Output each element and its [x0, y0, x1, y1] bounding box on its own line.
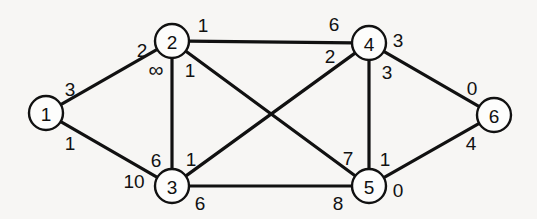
node-label-4: 4 [364, 34, 375, 55]
graph-edge-2-4 [188, 41, 353, 43]
graph-node-5: 5 [352, 169, 386, 203]
edge-weight-w-4-5-near5: 1 [380, 149, 391, 170]
edge-weight-w-2-4-near4: 6 [329, 14, 340, 35]
node-label-5: 5 [364, 177, 375, 198]
graph-node-1: 1 [29, 96, 63, 130]
edge-weight-w-4-6-near4: 3 [393, 30, 404, 51]
graph-node-6: 6 [477, 98, 511, 132]
graph-canvas: 123456 32110∞616171268313004 [0, 0, 537, 219]
edge-weight-w-2-5-near2: 1 [185, 60, 196, 81]
edge-weight-w-1-3-near3: 10 [123, 171, 144, 192]
node-label-1: 1 [41, 104, 52, 125]
graph-edge-4-6 [383, 51, 480, 107]
edge-weight-w-4-5-near4: 3 [382, 62, 393, 83]
edge-weight-w-5-6-near5: 0 [393, 180, 404, 201]
edges-group [60, 41, 480, 186]
edge-weight-w-1-3-near1: 1 [65, 133, 76, 154]
edge-weight-w-3-4-near4: 2 [325, 46, 336, 67]
edge-weight-w-1-2-near2: 2 [137, 40, 148, 61]
edge-weight-w-4-6-near6: 0 [467, 78, 478, 99]
node-label-6: 6 [489, 106, 500, 127]
graph-figure: 123456 32110∞616171268313004 [0, 0, 537, 219]
edge-weight-w-1-2-near1: 3 [65, 79, 76, 100]
graph-node-3: 3 [155, 169, 189, 203]
edge-weight-w-3-4-near3: 1 [186, 149, 197, 170]
graph-node-2: 2 [155, 24, 189, 58]
edge-weight-w-2-3-near2: ∞ [149, 58, 164, 81]
node-label-2: 2 [167, 32, 178, 53]
edge-weight-w-3-5-near5: 8 [333, 193, 344, 214]
graph-node-4: 4 [352, 26, 386, 60]
edge-weight-w-3-5-near3: 6 [195, 193, 206, 214]
edge-weight-w-2-4-near2: 1 [198, 15, 209, 36]
node-label-3: 3 [167, 177, 178, 198]
edge-weight-w-2-3-near3: 6 [151, 150, 162, 171]
edge-weight-w-2-5-near5: 7 [343, 148, 354, 169]
edge-weight-w-5-6-near6: 4 [466, 133, 477, 154]
